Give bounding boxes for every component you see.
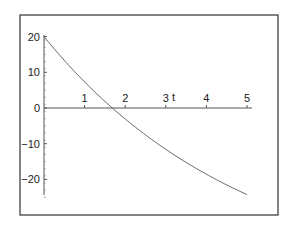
x-tick-label: 1 — [82, 92, 88, 104]
x-tick-label: 4 — [203, 92, 209, 104]
y-tick-label: −10 — [21, 138, 40, 150]
x-tick-label: 3 — [163, 92, 169, 104]
y-tick-label: 10 — [28, 66, 40, 78]
y-tick-label: 0 — [34, 102, 40, 114]
x-tick-label: 2 — [122, 92, 128, 104]
y-tick-label: 20 — [28, 31, 40, 43]
chart: 1234520100−10−20 t — [0, 0, 290, 232]
x-tick-label: 5 — [244, 92, 250, 104]
x-axis-label: t — [172, 91, 175, 103]
chart-frame — [20, 15, 278, 215]
y-tick-label: −20 — [21, 173, 40, 185]
